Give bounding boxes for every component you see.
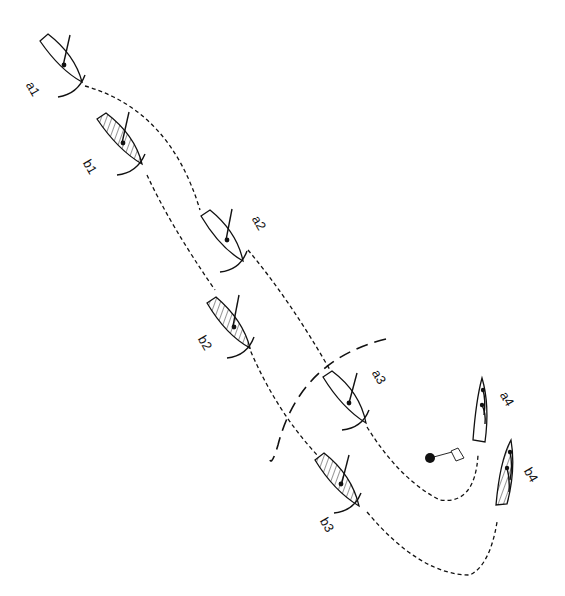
boat-b2: b2 <box>195 295 254 358</box>
boat-a1: a1 <box>23 34 85 99</box>
boat-b1: b1 <box>80 112 145 177</box>
label-a4: a4 <box>497 389 517 409</box>
boat-a3: a3 <box>323 367 389 430</box>
label-a2: a2 <box>249 213 269 233</box>
boat-b4: b4 <box>496 440 541 505</box>
label-a1: a1 <box>23 79 43 99</box>
track-boat-b <box>147 175 497 575</box>
boat-a4: a4 <box>473 378 517 442</box>
sailing-diagram: a1 b1 a2 b2 a3 b3 <box>0 0 565 596</box>
track-boat-a <box>85 86 478 500</box>
mark-buoy-with-flag-icon <box>425 448 464 463</box>
label-b4: b4 <box>521 465 541 485</box>
label-b3: b3 <box>317 515 337 535</box>
boat-b3: b3 <box>315 453 361 535</box>
label-b2: b2 <box>195 333 215 353</box>
label-a3: a3 <box>369 367 389 387</box>
label-b1: b1 <box>80 157 100 177</box>
zone-circle-arc <box>270 339 386 461</box>
